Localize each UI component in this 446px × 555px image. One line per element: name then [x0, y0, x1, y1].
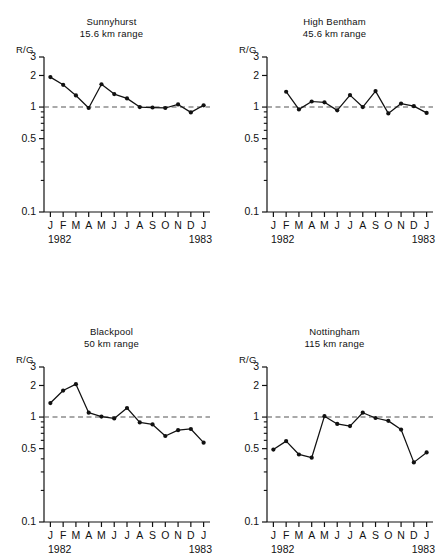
x-tick-label: S — [149, 529, 156, 541]
data-point — [202, 441, 206, 445]
data-point — [373, 89, 377, 93]
y-tick-label: 3 — [253, 360, 259, 372]
x-tick-label: J — [335, 529, 340, 541]
x-tick-label: O — [384, 219, 392, 231]
x-tick-label: J — [347, 529, 352, 541]
x-tick-label: M — [295, 529, 304, 541]
y-tick-label: 1 — [30, 410, 36, 422]
year-label-end: 1983 — [189, 233, 213, 245]
data-point — [322, 414, 326, 418]
plot-area: 3210.50.1JFMAMJJASONDJ19821983 — [0, 310, 223, 555]
data-point — [189, 427, 193, 431]
x-tick-label: M — [295, 219, 304, 231]
data-point — [74, 93, 78, 97]
data-point — [399, 427, 403, 431]
data-point — [112, 416, 116, 420]
x-tick-label: J — [124, 219, 129, 231]
data-point — [335, 108, 339, 112]
data-point — [61, 83, 65, 87]
y-tick-label: 0.1 — [244, 515, 259, 527]
x-tick-label: N — [397, 219, 405, 231]
data-point — [189, 110, 193, 114]
year-label-start: 1982 — [48, 543, 72, 555]
data-line — [50, 384, 203, 443]
data-point — [125, 406, 129, 410]
x-tick-label: M — [97, 529, 106, 541]
year-label-end: 1983 — [189, 543, 213, 555]
data-point — [412, 104, 416, 108]
panel-high-bentham: High Bentham 45.6 km range R/G 3210.50.1… — [223, 0, 446, 277]
plot-area: 3210.50.1JFMAMJJASONDJ19821983 — [223, 310, 446, 555]
x-tick-label: J — [271, 529, 276, 541]
data-point — [399, 101, 403, 105]
y-tick-label: 0.1 — [244, 205, 259, 217]
data-point — [310, 99, 314, 103]
data-point — [163, 434, 167, 438]
x-tick-label: D — [410, 219, 418, 231]
plot-area: 3210.50.1JFMAMJJASONDJ19821983 — [223, 0, 446, 277]
data-line — [286, 91, 426, 113]
data-point — [202, 103, 206, 107]
x-tick-label: F — [60, 219, 66, 231]
data-point — [87, 106, 91, 110]
y-tick-label: 1 — [253, 100, 259, 112]
x-tick-label: J — [271, 219, 276, 231]
x-tick-label: N — [397, 529, 405, 541]
x-tick-label: M — [72, 529, 81, 541]
year-label-start: 1982 — [271, 233, 295, 245]
x-tick-label: N — [174, 529, 182, 541]
data-point — [297, 107, 301, 111]
x-tick-label: M — [320, 529, 329, 541]
data-point — [284, 439, 288, 443]
y-tick-label: 0.5 — [244, 442, 259, 454]
data-point — [386, 419, 390, 423]
y-tick-label: 0.1 — [21, 515, 36, 527]
data-point — [310, 456, 314, 460]
data-point — [176, 102, 180, 106]
y-tick-label: 3 — [253, 50, 259, 62]
x-tick-label: S — [372, 219, 379, 231]
y-tick-label: 0.5 — [244, 132, 259, 144]
data-point — [150, 105, 154, 109]
data-point — [322, 100, 326, 104]
x-tick-label: M — [72, 219, 81, 231]
chart-svg: 3210.50.1JFMAMJJASONDJ19821983 — [0, 0, 223, 277]
x-tick-label: A — [136, 529, 143, 541]
x-tick-label: J — [201, 529, 206, 541]
x-tick-label: D — [187, 219, 195, 231]
x-tick-label: A — [359, 219, 366, 231]
data-point — [425, 450, 429, 454]
chart-svg: 3210.50.1JFMAMJJASONDJ19821983 — [223, 310, 446, 555]
x-tick-label: F — [60, 529, 66, 541]
year-label-start: 1982 — [271, 543, 295, 555]
figure-root: Sunnyhurst 15.6 km range R/G 3210.50.1JF… — [0, 0, 446, 555]
x-tick-label: J — [112, 529, 117, 541]
x-tick-label: J — [124, 529, 129, 541]
x-tick-label: A — [85, 219, 92, 231]
data-point — [163, 106, 167, 110]
x-tick-label: J — [424, 219, 429, 231]
x-tick-label: A — [136, 219, 143, 231]
data-point — [335, 422, 339, 426]
y-tick-label: 0.5 — [21, 442, 36, 454]
data-point — [48, 75, 52, 79]
year-label-end: 1983 — [412, 233, 436, 245]
data-point — [361, 105, 365, 109]
x-tick-label: N — [174, 219, 182, 231]
data-point — [150, 422, 154, 426]
data-point — [284, 90, 288, 94]
y-tick-label: 2 — [30, 379, 36, 391]
x-tick-label: A — [359, 529, 366, 541]
y-tick-label: 1 — [253, 410, 259, 422]
x-tick-label: M — [320, 219, 329, 231]
data-point — [348, 424, 352, 428]
chart-svg: 3210.50.1JFMAMJJASONDJ19821983 — [223, 0, 446, 277]
x-tick-label: O — [161, 219, 169, 231]
data-point — [87, 411, 91, 415]
panel-blackpool: Blackpool 50 km range R/G 3210.50.1JFMAM… — [0, 310, 223, 555]
x-tick-label: A — [308, 529, 315, 541]
y-tick-label: 0.1 — [21, 205, 36, 217]
x-tick-label: D — [187, 529, 195, 541]
data-point — [271, 447, 275, 451]
x-tick-label: J — [48, 529, 53, 541]
